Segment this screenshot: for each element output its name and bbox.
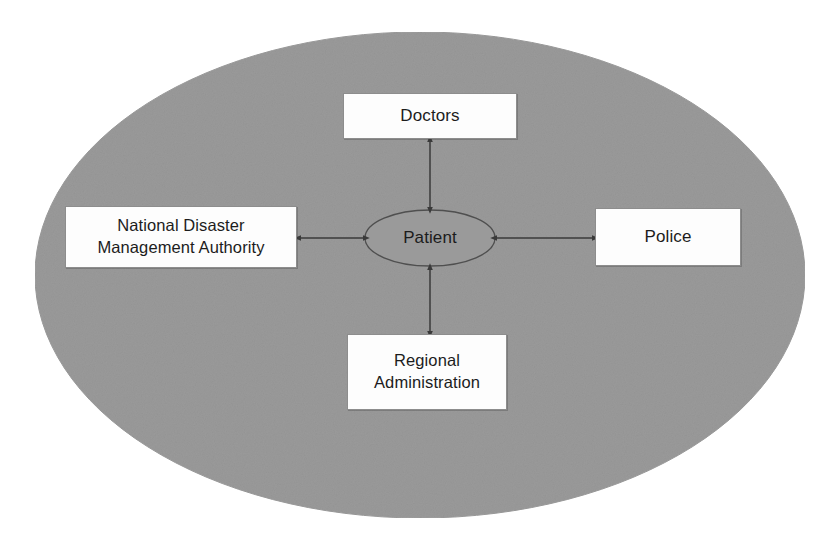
- node-doctors-label: Doctors: [394, 105, 465, 127]
- node-police-label: Police: [639, 226, 698, 248]
- diagram-canvas: Doctors National Disaster Management Aut…: [0, 0, 838, 547]
- node-doctors[interactable]: Doctors: [343, 93, 517, 139]
- node-regional-administration[interactable]: Regional Administration: [347, 334, 507, 410]
- node-ndma-label: National Disaster Management Authority: [91, 215, 270, 259]
- node-regional-label: Regional Administration: [368, 350, 486, 394]
- node-national-disaster-management-authority[interactable]: National Disaster Management Authority: [65, 206, 297, 268]
- diagram-shapes-layer: [0, 0, 838, 547]
- patient-ellipse[interactable]: [365, 210, 495, 266]
- node-police[interactable]: Police: [595, 208, 741, 266]
